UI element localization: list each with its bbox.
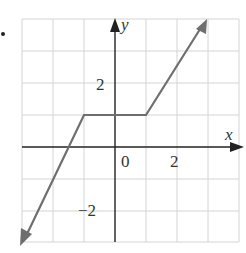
graph-arrow-down-icon [20, 228, 32, 246]
x-tick-label-2: 2 [170, 153, 179, 170]
origin-label: 0 [121, 153, 130, 170]
axes [22, 26, 236, 242]
y-axis-arrow-icon [110, 18, 120, 32]
grid [22, 19, 239, 242]
y-axis-label: y [121, 16, 129, 33]
y-tick-label-neg2: −2 [78, 202, 96, 219]
y-tick-label-2: 2 [96, 76, 105, 93]
x-axis-label: x [225, 126, 233, 143]
graph-canvas [0, 0, 246, 253]
